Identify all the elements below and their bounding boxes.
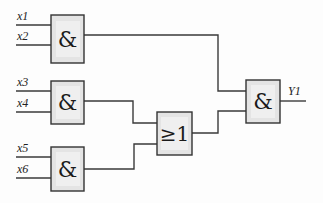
gate-and2: & bbox=[51, 81, 84, 124]
wire-or1-to-and4 bbox=[192, 111, 246, 133]
label-x4: x4 bbox=[16, 96, 28, 110]
wire-and2-to-or1 bbox=[84, 101, 157, 123]
gate-or1: ≥1 bbox=[157, 112, 192, 155]
wire-and3-to-or1 bbox=[84, 144, 157, 169]
label-x2: x2 bbox=[16, 29, 28, 43]
and-symbol: & bbox=[58, 90, 78, 115]
label-x3: x3 bbox=[16, 75, 28, 89]
circuit-svg: & & & ≥1 & x1 x2 x3 x4 x5 x6 Y1 bbox=[0, 0, 323, 203]
label-x1: x1 bbox=[16, 9, 28, 23]
label-y1: Y1 bbox=[288, 84, 301, 98]
or-symbol: ≥1 bbox=[160, 122, 189, 146]
gate-and1: & bbox=[51, 15, 84, 63]
label-x6: x6 bbox=[16, 162, 28, 176]
and-symbol: & bbox=[253, 89, 273, 114]
gate-and4: & bbox=[246, 80, 280, 123]
and-symbol: & bbox=[58, 27, 78, 52]
and-symbol: & bbox=[58, 157, 78, 182]
label-x5: x5 bbox=[16, 141, 28, 155]
logic-diagram: & & & ≥1 & x1 x2 x3 x4 x5 x6 Y1 bbox=[0, 0, 323, 203]
wire-and1-to-and4 bbox=[84, 35, 246, 91]
gate-and3: & bbox=[51, 147, 84, 191]
